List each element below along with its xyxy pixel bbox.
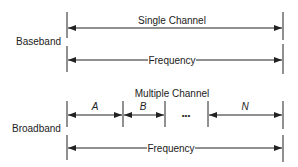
broadband-frequency-label: Frequency bbox=[147, 143, 194, 154]
broadband-label: Broadband bbox=[12, 123, 61, 134]
ellipsis: ••• bbox=[182, 111, 191, 120]
baseband-label: Baseband bbox=[16, 36, 61, 47]
baseband-frequency-label: Frequency bbox=[148, 55, 195, 66]
single-channel-label: Single Channel bbox=[138, 15, 206, 26]
channel-b-label: B bbox=[140, 101, 147, 112]
baseband-section: Single Channel Baseband Frequency bbox=[16, 12, 283, 74]
multiple-channel-label: Multiple Channel bbox=[135, 88, 210, 99]
baseband-broadband-diagram: Single Channel Baseband Frequency Multip… bbox=[0, 0, 298, 167]
channel-n-label: N bbox=[241, 101, 249, 112]
broadband-section: Multiple Channel A B ••• N Broadband Fre… bbox=[12, 88, 283, 162]
channel-a-label: A bbox=[91, 101, 99, 112]
